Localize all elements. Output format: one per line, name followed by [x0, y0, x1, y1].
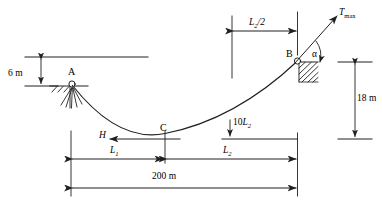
- dimension-label-half-l2: L2/2: [249, 18, 265, 29]
- dimension-label-6m: 6 m: [8, 69, 23, 79]
- l2-subscript: 2: [228, 150, 231, 157]
- cable-curve: [73, 61, 298, 135]
- half-l2-suffix: /2: [258, 17, 265, 27]
- dimension-6m: [25, 60, 58, 87]
- load-label-10l2: 10L2: [233, 118, 251, 129]
- force-label-h: H: [99, 131, 106, 141]
- tmax-subscript: max: [344, 12, 355, 19]
- dimension-label-200m: 200 m: [152, 172, 176, 182]
- dimension-label-l2: L2: [223, 146, 232, 157]
- force-label-tmax: Tmax: [339, 8, 356, 19]
- diagram-canvas: [0, 0, 383, 207]
- point-label-b: B: [286, 49, 293, 59]
- support-b: [299, 62, 318, 82]
- dimension-label-18m: 18 m: [357, 94, 376, 104]
- l1-subscript: 1: [115, 150, 118, 157]
- dimension-label-l1: L1: [110, 146, 119, 157]
- pin-a-icon: [69, 81, 75, 87]
- cable-structure-diagram: A B C 6 m 18 m 200 m L1 L2 L2/2 Tmax H α…: [0, 0, 383, 207]
- load-prefix: 10: [233, 117, 243, 127]
- load-subscript: 2: [248, 122, 251, 129]
- point-label-a: A: [68, 67, 75, 77]
- extension-lines: [71, 131, 298, 196]
- point-label-c: C: [160, 123, 167, 133]
- angle-label-alpha: α: [312, 50, 317, 60]
